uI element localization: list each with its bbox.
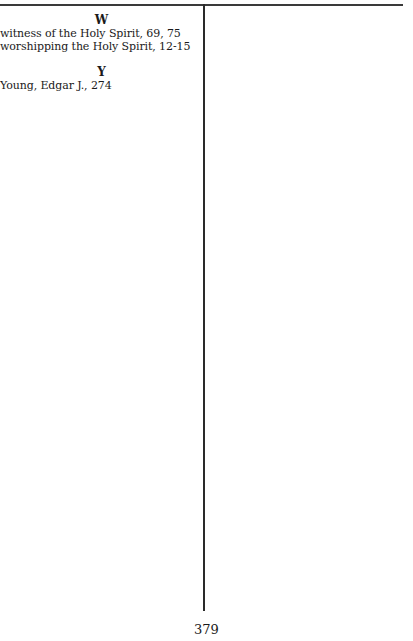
index-entry: Young, Edgar J., 274	[0, 79, 203, 92]
column-divider	[203, 4, 205, 611]
index-group-w: W witness of the Holy Spirit, 69, 75 wor…	[0, 14, 203, 53]
index-letter-heading: W	[0, 14, 203, 27]
index-entry: witness of the Holy Spirit, 69, 75	[0, 27, 203, 40]
page-number: 379	[0, 622, 413, 637]
top-rule	[0, 4, 403, 6]
index-entry: worshipping the Holy Spirit, 12-15	[0, 40, 203, 53]
index-letter-heading: Y	[0, 66, 203, 79]
index-group-y: Y Young, Edgar J., 274	[0, 66, 203, 92]
index-left-column: W witness of the Holy Spirit, 69, 75 wor…	[0, 14, 203, 105]
